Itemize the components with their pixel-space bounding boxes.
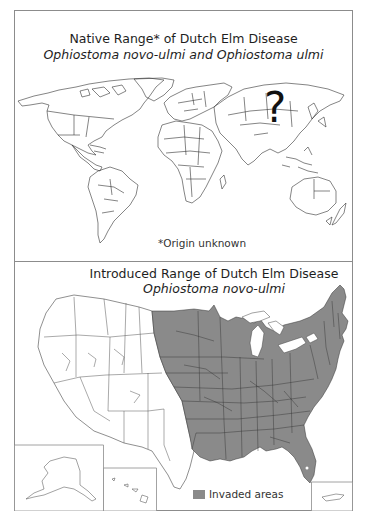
alaska-inset <box>15 445 104 511</box>
invaded-legend-swatch <box>193 490 205 499</box>
puerto-rico-inset <box>312 482 353 511</box>
africa-outline <box>158 121 222 203</box>
australia-outline <box>290 177 336 215</box>
unknown-origin-question-mark: ? <box>264 84 286 132</box>
south-america-outline <box>88 167 138 243</box>
world-map <box>14 75 353 250</box>
native-range-title: Native Range* of Dutch Elm Disease <box>14 31 353 46</box>
us-map <box>14 261 353 511</box>
origin-unknown-footnote: *Origin unknown <box>158 237 246 249</box>
invaded-legend-label: Invaded areas <box>209 488 283 500</box>
europe-outline <box>164 83 232 121</box>
map-legend: Invaded areas <box>193 488 283 500</box>
hawaii-inset <box>104 468 157 511</box>
native-range-subtitle: Ophiostoma novo-ulmi and Ophiostoma ulmi <box>14 47 353 62</box>
